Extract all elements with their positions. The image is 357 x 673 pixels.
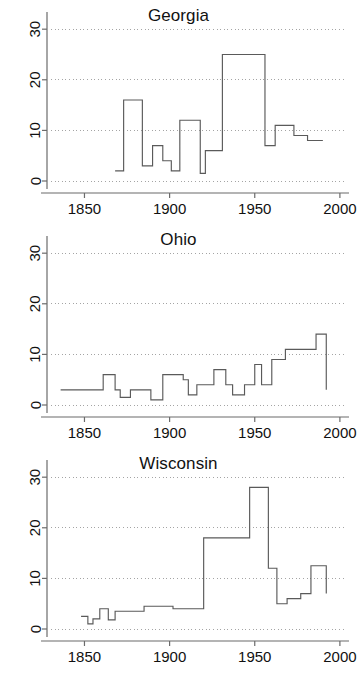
- x-tick-label: 2000: [323, 648, 356, 665]
- x-tick-label: 1850: [68, 648, 101, 665]
- y-tick-label: 10: [27, 122, 44, 139]
- y-tick-label: 20: [27, 519, 44, 536]
- step-series-line: [61, 334, 327, 400]
- y-tick-label: 0: [27, 625, 44, 633]
- x-tick-label: 1900: [153, 424, 186, 441]
- step-series-line: [81, 487, 326, 624]
- x-tick-label: 2000: [323, 424, 356, 441]
- x-tick-label: 2000: [323, 200, 356, 217]
- y-tick-label: 10: [27, 570, 44, 587]
- y-tick-label: 20: [27, 71, 44, 88]
- y-tick-label: 30: [27, 245, 44, 262]
- y-tick-label: 20: [27, 295, 44, 312]
- x-tick-label: 1900: [153, 648, 186, 665]
- panel-ohio: Ohio 01020301850190019502000: [0, 224, 357, 448]
- panel-georgia: Georgia 01020301850190019502000: [0, 0, 357, 224]
- y-tick-label: 0: [27, 401, 44, 409]
- x-tick-label: 1850: [68, 200, 101, 217]
- x-tick-label: 1950: [238, 200, 271, 217]
- y-tick-label: 10: [27, 346, 44, 363]
- step-chart-ohio: 01020301850190019502000: [0, 224, 357, 448]
- figure-canvas: Georgia 01020301850190019502000 Ohio 010…: [0, 0, 357, 673]
- x-tick-label: 1950: [238, 648, 271, 665]
- step-chart-georgia: 01020301850190019502000: [0, 0, 357, 224]
- x-tick-label: 1950: [238, 424, 271, 441]
- y-tick-label: 30: [27, 469, 44, 486]
- y-tick-label: 0: [27, 177, 44, 185]
- step-chart-wisconsin: 01020301850190019502000: [0, 448, 357, 672]
- x-tick-label: 1900: [153, 200, 186, 217]
- step-series-line: [115, 54, 323, 173]
- x-tick-label: 1850: [68, 424, 101, 441]
- panel-wisconsin: Wisconsin 01020301850190019502000: [0, 448, 357, 672]
- y-tick-label: 30: [27, 21, 44, 38]
